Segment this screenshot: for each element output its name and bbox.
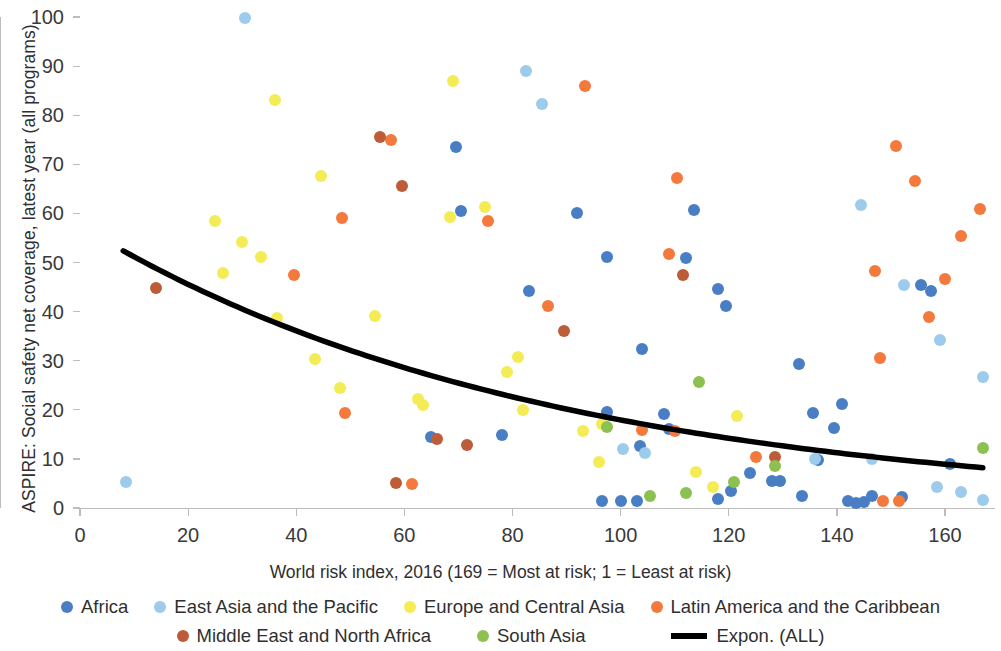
scatter-point [447, 75, 459, 87]
scatter-point [677, 269, 689, 281]
scatter-point [596, 495, 608, 507]
scatter-point [239, 12, 251, 24]
y-tick-mark [73, 164, 80, 165]
scatter-point [955, 230, 967, 242]
scatter-point [579, 80, 591, 92]
legend-dot-marker [477, 630, 489, 642]
scatter-point [925, 285, 937, 297]
legend-item[interactable]: Latin America and the Caribbean [651, 596, 940, 618]
scatter-point [339, 407, 351, 419]
x-tick-mark [296, 508, 297, 516]
scatter-point [663, 248, 675, 260]
scatter-point [615, 495, 627, 507]
legend-item[interactable]: South Asia [477, 625, 585, 647]
x-tick-label: 20 [158, 525, 218, 545]
y-tick-mark [73, 311, 80, 312]
y-tick-label: 30 [0, 351, 64, 371]
scatter-point [680, 252, 692, 264]
scatter-point [334, 382, 346, 394]
scatter-point [890, 140, 902, 152]
scatter-point [977, 371, 989, 383]
scatter-point [236, 236, 248, 248]
scatter-point [517, 404, 529, 416]
scatter-point [601, 421, 613, 433]
scatter-point [688, 204, 700, 216]
x-tick-label: 140 [807, 525, 867, 545]
legend-label: Africa [81, 596, 128, 618]
scatter-point [577, 425, 589, 437]
y-tick-label: 50 [0, 253, 64, 273]
legend-label: South Asia [497, 625, 585, 647]
scatter-point [444, 211, 456, 223]
scatter-point [523, 285, 535, 297]
x-tick-mark [728, 508, 729, 516]
y-tick-label: 70 [0, 154, 64, 174]
scatter-point [690, 466, 702, 478]
chart-root: ASPIRE: Social safety net coverage, late… [0, 0, 1001, 651]
scatter-point [712, 283, 724, 295]
x-tick-label: 80 [483, 525, 543, 545]
scatter-point [707, 481, 719, 493]
scatter-point [728, 476, 740, 488]
y-tick-mark [73, 213, 80, 214]
legend-dot-marker [177, 630, 189, 642]
x-tick-label: 120 [699, 525, 759, 545]
scatter-point [939, 273, 951, 285]
y-tick-label: 100 [0, 7, 64, 27]
legend-label: Middle East and North Africa [197, 625, 431, 647]
scatter-point [571, 207, 583, 219]
x-tick-label: 40 [266, 525, 326, 545]
scatter-point [406, 478, 418, 490]
scatter-point [731, 410, 743, 422]
legend-item[interactable]: East Asia and the Pacific [154, 596, 378, 618]
scatter-point [390, 477, 402, 489]
scatter-point [271, 312, 283, 324]
scatter-point [774, 475, 786, 487]
legend-item[interactable]: Europe and Central Asia [404, 596, 625, 618]
y-tick-mark [73, 458, 80, 459]
scatter-point [750, 451, 762, 463]
scatter-point [461, 439, 473, 451]
x-tick-label: 160 [915, 525, 975, 545]
scatter-point [893, 495, 905, 507]
legend-label: East Asia and the Pacific [174, 596, 378, 618]
y-tick-label: 80 [0, 105, 64, 125]
scatter-point [923, 311, 935, 323]
scatter-point [512, 351, 524, 363]
x-tick-mark [944, 508, 945, 516]
scatter-point [931, 481, 943, 493]
y-tick-label: 90 [0, 56, 64, 76]
scatter-point [796, 490, 808, 502]
legend-item[interactable]: Expon. (ALL) [671, 625, 824, 647]
scatter-point [396, 180, 408, 192]
scatter-point [955, 486, 967, 498]
scatter-point [269, 94, 281, 106]
scatter-point [309, 353, 321, 365]
legend-row: Middle East and North AfricaSouth AsiaEx… [0, 621, 1001, 650]
x-tick-mark [79, 508, 80, 516]
chart-legend: AfricaEast Asia and the PacificEurope an… [0, 592, 1001, 650]
scatter-point [693, 376, 705, 388]
legend-item[interactable]: Africa [61, 596, 128, 618]
scatter-point [944, 458, 956, 470]
scatter-point [680, 487, 692, 499]
scatter-point [558, 325, 570, 337]
scatter-point [617, 443, 629, 455]
scatter-point [601, 251, 613, 263]
scatter-point [455, 205, 467, 217]
scatter-point [877, 495, 889, 507]
legend-dot-marker [651, 601, 663, 613]
legend-label: Latin America and the Caribbean [671, 596, 940, 618]
scatter-point [536, 98, 548, 110]
legend-item[interactable]: Middle East and North Africa [177, 625, 431, 647]
scatter-point [482, 215, 494, 227]
y-tick-label: 10 [0, 449, 64, 469]
scatter-point [542, 300, 554, 312]
scatter-point [712, 493, 724, 505]
scatter-point [720, 300, 732, 312]
scatter-point [636, 343, 648, 355]
scatter-point [793, 358, 805, 370]
scatter-point [315, 170, 327, 182]
scatter-point [520, 65, 532, 77]
x-tick-mark [188, 508, 189, 516]
